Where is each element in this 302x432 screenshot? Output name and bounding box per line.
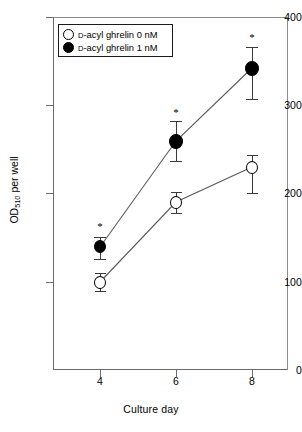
significance-marker-day4: *	[94, 222, 106, 230]
x-tick-label-8: 8	[240, 376, 264, 387]
x-tick-label-6: 6	[164, 376, 188, 387]
errorbar-cap-bottom-1nM-day6	[170, 161, 182, 162]
errorbar-cap-top-0nM-day8	[247, 155, 258, 156]
y-tick-mark-400	[46, 17, 53, 18]
x-tick-label-4: 4	[88, 376, 112, 387]
legend-label-1nM: D-acyl ghrelin 1 nM	[78, 42, 157, 54]
data-point-1nM-day4	[94, 240, 106, 253]
data-point-0nM-day8	[246, 161, 258, 174]
legend-open-circle-icon	[63, 29, 74, 40]
errorbar-cap-bottom-0nM-day6	[171, 213, 182, 214]
legend-label-0nM: D-acyl ghrelin 0 nM	[78, 29, 157, 41]
y-tick-label-200: 200	[268, 188, 302, 199]
y-tick-label-0: 0	[268, 365, 302, 376]
legend-item-1nM: D-acyl ghrelin 1 nM	[63, 41, 172, 54]
y-axis-label-tail: per well	[8, 156, 20, 195]
figure-od510-culture-day: 400 300 200 100 0 4 6 8 Culture day OD51…	[0, 0, 302, 432]
legend-item-0nM: D-acyl ghrelin 0 nM	[63, 28, 172, 41]
significance-marker-day8: *	[246, 33, 258, 41]
legend-text-1nM: -acyl ghrelin 1 nM	[83, 42, 157, 53]
errorbar-cap-top-0nM-day6	[171, 192, 182, 193]
data-point-0nM-day4	[94, 276, 106, 289]
errorbar-cap-top-1nM-day8	[246, 47, 258, 48]
errorbar-cap-top-0nM-day4	[95, 273, 106, 274]
y-tick-label-300: 300	[268, 100, 302, 111]
errorbar-cap-top-1nM-day6	[170, 121, 182, 122]
data-point-0nM-day6	[170, 196, 182, 209]
legend-filled-circle-icon	[63, 42, 74, 53]
y-tick-label-400: 400	[268, 12, 302, 23]
errorbar-cap-top-1nM-day4	[94, 237, 106, 238]
errorbar-cap-bottom-0nM-day8	[247, 193, 258, 194]
y-tick-label-100: 100	[268, 277, 302, 288]
significance-marker-day6: *	[170, 108, 182, 116]
y-axis-label-base: OD	[8, 208, 20, 224]
y-axis-label-subscript: 510	[13, 196, 22, 208]
legend: D-acyl ghrelin 0 nM D-acyl ghrelin 1 nM	[58, 24, 173, 57]
y-tick-mark-300	[46, 105, 53, 106]
x-axis-label: Culture day	[0, 403, 302, 415]
data-point-1nM-day8	[245, 61, 259, 76]
legend-text-0nM: -acyl ghrelin 0 nM	[83, 29, 157, 40]
data-point-1nM-day6	[169, 134, 183, 149]
y-tick-mark-200	[46, 193, 53, 194]
y-axis-label: OD510 per well	[8, 130, 20, 250]
errorbar-cap-bottom-1nM-day4	[94, 259, 106, 260]
errorbar-cap-bottom-1nM-day8	[246, 99, 258, 100]
errorbar-cap-bottom-0nM-day4	[95, 291, 106, 292]
y-tick-mark-100	[46, 282, 53, 283]
